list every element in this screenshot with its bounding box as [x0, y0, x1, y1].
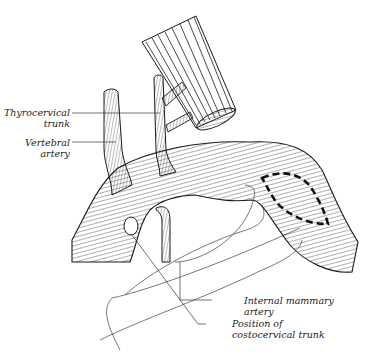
label-line: trunk: [2, 118, 70, 129]
label-line: artery: [2, 148, 70, 159]
label-line: costocervical trunk: [232, 329, 325, 340]
label-line: Vertebral: [2, 137, 70, 148]
internal-mammary-artery-shape: [156, 207, 170, 262]
label-line: artery: [244, 306, 334, 317]
label-vertebral-artery: Vertebral artery: [2, 137, 70, 159]
label-line: Internal mammary: [244, 295, 334, 306]
label-line: Position of: [232, 318, 325, 329]
label-line: Thyrocervical: [2, 107, 70, 118]
costocervical-oval: [124, 217, 138, 235]
anatomy-diagram: Thyrocervical trunk Vertebral artery Int…: [0, 0, 371, 356]
label-internal-mammary-artery: Internal mammary artery: [244, 295, 334, 317]
label-costocervical-trunk: Position of costocervical trunk: [232, 318, 325, 340]
label-thyrocervical-trunk: Thyrocervical trunk: [2, 107, 70, 129]
